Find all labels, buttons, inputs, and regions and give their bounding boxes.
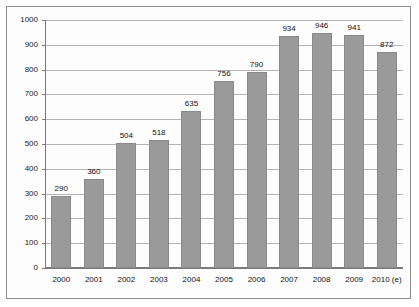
y-axis-tick-label: 400 bbox=[4, 165, 38, 173]
x-axis-labels: 2000200120022003200420052006200720082009… bbox=[45, 276, 403, 292]
y-axis-tick-label: 200 bbox=[4, 214, 38, 222]
bar bbox=[344, 35, 364, 268]
bars-layer bbox=[45, 20, 403, 268]
bar bbox=[51, 196, 71, 268]
y-axis-tick-label: 0 bbox=[4, 264, 38, 272]
y-axis-tick-label: 800 bbox=[4, 66, 38, 74]
bar bbox=[181, 111, 201, 268]
bar-chart-figure: 2000200120022003200420052006200720082009… bbox=[0, 0, 419, 307]
y-axis-tick-label: 1000 bbox=[4, 16, 38, 24]
bar bbox=[312, 33, 332, 268]
bar-value-label: 360 bbox=[74, 168, 114, 176]
bar bbox=[247, 72, 267, 268]
x-axis-tick-label: 2010 (e) bbox=[363, 276, 411, 284]
gridline bbox=[46, 268, 403, 269]
bar-value-label: 518 bbox=[139, 129, 179, 137]
bar bbox=[377, 52, 397, 268]
bar-value-label: 941 bbox=[334, 24, 374, 32]
bar bbox=[84, 179, 104, 268]
y-axis-tick-label: 500 bbox=[4, 140, 38, 148]
bar-value-label: 635 bbox=[171, 100, 211, 108]
bar-value-label: 290 bbox=[41, 185, 81, 193]
bar bbox=[214, 81, 234, 268]
bar-value-label: 872 bbox=[367, 41, 407, 49]
y-axis-tick-label: 900 bbox=[4, 41, 38, 49]
y-axis-tick-mark bbox=[42, 268, 46, 269]
y-axis-tick-label: 700 bbox=[4, 90, 38, 98]
y-axis-tick-label: 300 bbox=[4, 190, 38, 198]
y-axis-tick-label: 600 bbox=[4, 115, 38, 123]
y-axis-tick-label: 100 bbox=[4, 239, 38, 247]
bar bbox=[149, 140, 169, 268]
bar bbox=[116, 143, 136, 268]
bar-value-label: 756 bbox=[204, 70, 244, 78]
bar-value-label: 790 bbox=[237, 61, 277, 69]
bar bbox=[279, 36, 299, 268]
